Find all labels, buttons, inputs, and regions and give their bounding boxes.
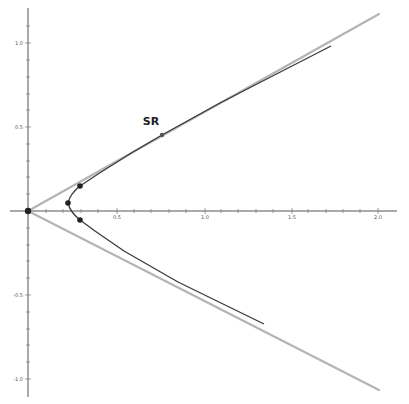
lower-asymptote-line: [28, 211, 379, 390]
x-tick-label-2.0: 2.0: [374, 214, 382, 220]
y-tick-label-0.5: 0.5: [15, 124, 23, 130]
x-tick-label-1.0: 1.0: [201, 214, 209, 220]
sr-point: [160, 133, 164, 137]
y-tick-label-neg1.0: -1.0: [13, 376, 23, 382]
lower-point: [77, 217, 83, 223]
x-tick-label-1.5: 1.5: [288, 214, 296, 220]
upper-point: [77, 183, 83, 189]
sr-label: SR: [143, 115, 160, 128]
x-tick-label-0.5: 0.5: [113, 214, 121, 220]
vertex-point: [65, 200, 71, 206]
y-tick-label-neg0.5: -0.5: [13, 292, 23, 298]
origin-point: [25, 208, 31, 214]
hyperbola-curve: [68, 46, 331, 324]
y-tick-label-1.0: 1.0: [15, 40, 23, 46]
plot-area: 1.0 0.5 -0.5 -1.0 0.5 1.0 1.5 2.0 SR: [0, 0, 409, 404]
